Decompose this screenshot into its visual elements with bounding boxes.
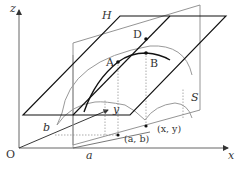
point-B: [144, 51, 148, 55]
a-label: a: [86, 149, 93, 162]
origin-label: O: [6, 148, 15, 161]
y-axis-label: y: [112, 103, 120, 116]
point-A-label: A: [105, 56, 115, 69]
z-axis-label: z: [9, 2, 16, 15]
point-xy: [144, 124, 147, 127]
tangent-plane-diagram: z O x y H A B D S b a (a, b) (x, y): [0, 0, 235, 179]
b-label: b: [43, 121, 50, 134]
xy-label: (x, y): [157, 123, 181, 134]
x-axis-label: x: [228, 149, 235, 162]
plane-H-label: H: [101, 9, 112, 22]
point-ab: [116, 133, 119, 136]
ab-label: (a, b): [124, 133, 149, 144]
point-D-label: D: [133, 28, 142, 41]
surface-S-label: S: [191, 91, 199, 104]
y-axis: [19, 110, 108, 148]
point-B-label: B: [150, 57, 158, 70]
point-A: [116, 60, 120, 64]
point-D: [144, 37, 148, 41]
